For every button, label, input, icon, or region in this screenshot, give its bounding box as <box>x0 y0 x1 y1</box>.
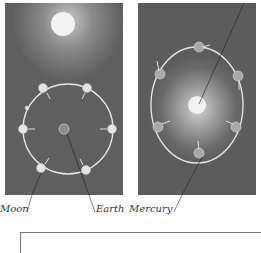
moon-label: Moon <box>0 203 29 214</box>
caption-box-frame <box>20 232 261 253</box>
earth-moon-panel <box>5 3 123 195</box>
sun-icon <box>188 96 206 114</box>
earth-label: Earth <box>96 203 125 214</box>
mercury-sun-panel <box>138 3 256 195</box>
moon-leader-line <box>32 173 41 195</box>
mercury-pointer-line <box>199 3 244 104</box>
mercury-sun-diagram <box>138 3 256 195</box>
earth-icon <box>59 124 69 134</box>
mercury-label: Mercury <box>129 203 172 214</box>
earth-moon-diagram <box>5 3 123 195</box>
sun-icon <box>51 12 75 36</box>
earth-leader-line <box>67 134 89 195</box>
